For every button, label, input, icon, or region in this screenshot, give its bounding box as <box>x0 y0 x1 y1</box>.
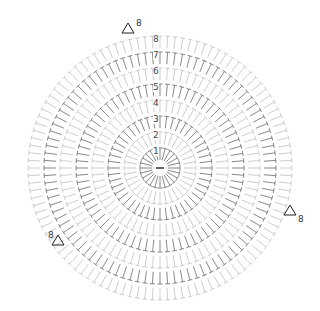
row-number: 7 <box>153 50 159 60</box>
row-number: 1 <box>153 146 159 156</box>
row-number: 8 <box>153 34 159 44</box>
row-number: 3 <box>153 114 159 124</box>
svg-text:8: 8 <box>136 18 142 28</box>
row-number: 2 <box>153 130 159 140</box>
end-marker-triangle-icon <box>122 23 134 33</box>
row-number: 4 <box>153 98 159 108</box>
row-number: 6 <box>153 66 159 76</box>
svg-text:8: 8 <box>48 230 54 240</box>
row-number: 5 <box>153 82 159 92</box>
crochet-chart: 888 <box>0 0 320 311</box>
svg-text:8: 8 <box>298 214 304 224</box>
end-marker-triangle-icon <box>284 205 296 215</box>
